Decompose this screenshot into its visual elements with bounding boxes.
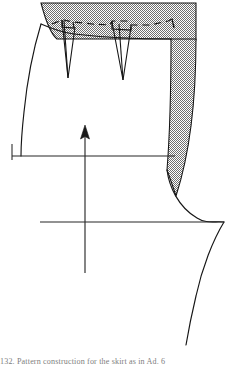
construction-lines-group (12, 144, 224, 222)
side-seam-allowance-band (167, 39, 196, 196)
grain-line-arrow (81, 125, 90, 273)
side-seam-lower-flare (186, 222, 224, 345)
skirt-pattern-diagram (0, 0, 236, 371)
center-front-line (21, 24, 41, 156)
figure-caption: 132. Pattern construction for the skirt … (0, 357, 236, 371)
figure-page: 132. Pattern construction for the skirt … (0, 0, 236, 371)
